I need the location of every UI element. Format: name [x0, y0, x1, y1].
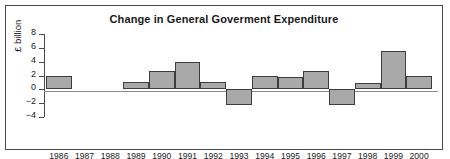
chart-frame: Change in General Goverment Expenditure … [5, 5, 443, 150]
bar [406, 76, 432, 90]
x-axis-label: 1988 [97, 151, 123, 157]
bar [123, 82, 149, 89]
bar [175, 62, 201, 89]
plot-area: 86420−2−4 198619871988198919901991199219… [44, 34, 438, 117]
x-axis-label: 1998 [355, 151, 381, 157]
y-axis-tick-label: 6 [14, 41, 36, 51]
y-axis-tick: 0 [39, 89, 44, 90]
x-axis-label: 1986 [46, 151, 72, 157]
bar [226, 89, 252, 104]
y-axis-tick: 4 [39, 62, 44, 63]
x-axis-label: 1992 [200, 151, 226, 157]
bar [381, 51, 407, 90]
y-axis-tick: 6 [39, 48, 44, 49]
x-axis-label: 1993 [226, 151, 252, 157]
bar [278, 77, 304, 89]
bar [355, 83, 381, 89]
x-axis-label: 1996 [303, 151, 329, 157]
y-axis-tick: 8 [39, 34, 44, 35]
x-axis-label: 1991 [175, 151, 201, 157]
bar [200, 82, 226, 89]
x-axis-label: 1997 [329, 151, 355, 157]
x-axis-label: 1995 [278, 151, 304, 157]
y-axis-tick-label: 2 [14, 69, 36, 79]
y-axis-tick-label: −2 [14, 96, 36, 106]
y-axis-tick-label: 8 [14, 27, 36, 37]
bar [149, 71, 175, 90]
x-axis-label: 1990 [149, 151, 175, 157]
x-axis-label: 1994 [252, 151, 278, 157]
bar [303, 71, 329, 89]
y-axis-line [44, 34, 45, 117]
bar [329, 89, 355, 105]
y-axis-tick: −4 [39, 117, 44, 118]
y-axis-tick-label: 0 [14, 82, 36, 92]
x-axis-label: 1987 [72, 151, 98, 157]
chart-title: Change in General Goverment Expenditure [6, 13, 442, 25]
y-axis-tick-label: 4 [14, 55, 36, 65]
bar [46, 76, 72, 90]
x-axis-label: 1999 [381, 151, 407, 157]
bar [252, 76, 278, 89]
x-axis-label: 1989 [123, 151, 149, 157]
x-axis-label: 2000 [406, 151, 432, 157]
y-axis-tick: 2 [39, 76, 44, 77]
y-axis-tick-label: −4 [14, 110, 36, 120]
y-axis-tick: −2 [39, 103, 44, 104]
